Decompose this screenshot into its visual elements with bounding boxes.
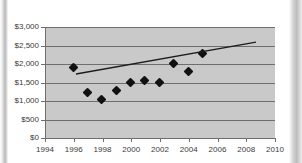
page-edge-right: [289, 0, 302, 163]
data-point: [140, 76, 150, 86]
y-tick: [41, 46, 45, 47]
x-tick: [218, 138, 219, 142]
x-tick: [74, 138, 75, 142]
page-edge-left: [0, 0, 8, 163]
data-point: [197, 49, 207, 59]
y-tick: [41, 120, 45, 121]
x-tick: [131, 138, 132, 142]
x-tick: [45, 138, 46, 142]
x-tick: [160, 138, 161, 142]
x-tick: [189, 138, 190, 142]
y-tick: [41, 27, 45, 28]
scatter-chart: $3,000 $2,500 $2,000 $1,500 $1,000 $500 …: [0, 0, 289, 163]
y-tick: [41, 101, 45, 102]
x-tick: [246, 138, 247, 142]
data-point: [111, 86, 121, 96]
gridline-1000: [46, 101, 275, 102]
x-tick: [103, 138, 104, 142]
data-point: [154, 77, 164, 87]
gridline-2500: [46, 46, 275, 47]
gridline-2000: [46, 64, 275, 65]
data-point: [126, 78, 136, 88]
data-point: [97, 94, 107, 104]
y-tick: [41, 64, 45, 65]
x-tick: [275, 138, 276, 142]
y-tick: [41, 83, 45, 84]
gridline-500: [46, 120, 275, 121]
data-point: [183, 66, 193, 76]
chart-screenshot: $3,000 $2,500 $2,000 $1,500 $1,000 $500 …: [0, 0, 302, 163]
gridline-3000: [46, 27, 275, 28]
data-point: [82, 87, 92, 97]
plot-area: [45, 27, 275, 138]
data-point: [169, 58, 179, 68]
